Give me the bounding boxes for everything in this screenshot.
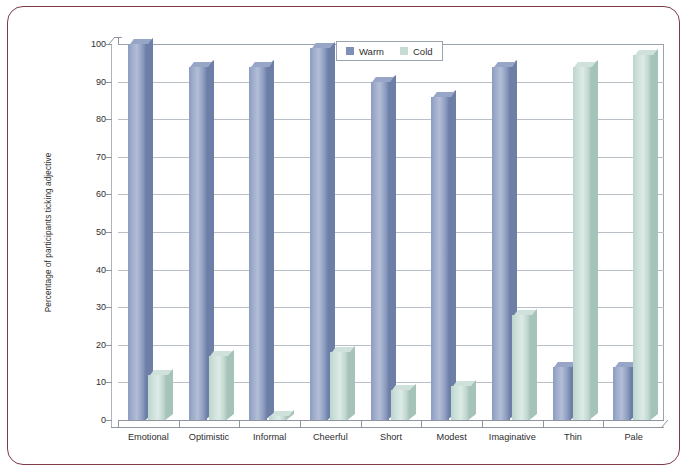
y-axis-tick-label: 100 xyxy=(80,39,106,49)
bar-warm xyxy=(371,82,389,420)
x-axis-line xyxy=(118,420,664,421)
y-axis-tick-label: 20 xyxy=(80,340,106,350)
x-axis-tick-mark xyxy=(603,420,604,427)
bar-top xyxy=(190,62,212,67)
x-axis-category-label: Informal xyxy=(253,432,286,442)
y-axis-tick-label: 30 xyxy=(80,302,106,312)
bar-face xyxy=(148,375,166,420)
y-axis-tick-mark xyxy=(106,157,112,158)
bar-face xyxy=(189,67,207,420)
bar-top xyxy=(635,50,657,55)
x-axis-tick-mark xyxy=(482,420,483,427)
bar-cold xyxy=(512,315,530,420)
bar-top xyxy=(372,77,394,82)
x-axis-tick-mark xyxy=(179,420,180,427)
y-axis-tick-mark xyxy=(106,270,112,271)
bar-side xyxy=(651,50,658,420)
y-axis-tick-mark xyxy=(106,345,112,346)
bar-top xyxy=(433,92,455,97)
y-axis-tick-mark xyxy=(106,420,112,421)
bar-cold xyxy=(391,390,409,420)
y-axis-tick-label: 40 xyxy=(80,265,106,275)
y-axis-tick-mark xyxy=(106,307,112,308)
bar-face xyxy=(613,367,631,420)
bar-top xyxy=(271,411,293,416)
bar-face xyxy=(371,82,389,420)
bar-side xyxy=(227,350,234,419)
bar-face xyxy=(209,356,227,420)
bar-group xyxy=(300,44,361,420)
bar-face xyxy=(128,44,146,420)
y-axis-depth-line xyxy=(111,44,112,427)
x-axis-category-labels: EmotionalOptimisticInformalCheerfulShort… xyxy=(118,432,664,452)
legend-swatch-icon xyxy=(346,47,354,55)
x-axis-tick-mark xyxy=(543,420,544,427)
bar-warm xyxy=(128,44,146,420)
y-axis-tick-labels: 0102030405060708090100 xyxy=(78,0,106,474)
bar-group xyxy=(603,44,664,420)
x-axis-category-label: Short xyxy=(380,432,402,442)
bar-top xyxy=(392,385,414,390)
bar-top xyxy=(150,370,172,375)
x-axis-category-label: Optimistic xyxy=(189,432,229,442)
bar-top xyxy=(332,347,354,352)
bar-group xyxy=(543,44,604,420)
bar-cold xyxy=(148,375,166,420)
bar-top xyxy=(453,381,475,386)
x-axis-tick-mark xyxy=(300,420,301,427)
bar-side xyxy=(469,380,476,419)
bar-top xyxy=(494,62,516,67)
bar-group xyxy=(421,44,482,420)
y-axis-tick-label: 10 xyxy=(80,377,106,387)
y-axis-tick-label: 0 xyxy=(80,415,106,425)
legend-label: Cold xyxy=(413,46,433,57)
y-axis-tick-label: 80 xyxy=(80,114,106,124)
bar-side xyxy=(267,61,274,420)
bar-cold xyxy=(633,55,651,420)
y-axis-tick-label: 50 xyxy=(80,227,106,237)
x-axis-category-label: Modest xyxy=(437,432,467,442)
x-axis-depth-line xyxy=(111,427,664,428)
bar-warm xyxy=(553,367,571,420)
plot-area xyxy=(118,44,664,420)
bar-top xyxy=(574,62,596,67)
x-axis-tick-mark xyxy=(118,420,119,427)
x-axis-category-label: Pale xyxy=(624,432,642,442)
bar-group xyxy=(482,44,543,420)
bar-warm xyxy=(492,67,510,420)
chart-legend: WarmCold xyxy=(336,41,443,61)
x-axis-category-label: Imaginative xyxy=(489,432,536,442)
bar-top xyxy=(312,43,334,48)
x-axis-tick-mark xyxy=(239,420,240,427)
bar-cold xyxy=(573,67,591,420)
bar-face xyxy=(633,55,651,420)
bar-face xyxy=(330,352,348,420)
bar-side xyxy=(166,369,173,419)
y-axis-tick-label: 70 xyxy=(80,152,106,162)
bar-side xyxy=(449,91,456,419)
x-axis-category-label: Emotional xyxy=(128,432,169,442)
legend-swatch-icon xyxy=(400,47,408,55)
legend-entry: Warm xyxy=(346,46,384,57)
x-axis-category-label: Thin xyxy=(564,432,582,442)
y-axis-title: Percentage of participants ticking adjec… xyxy=(44,108,53,358)
bar-side xyxy=(348,347,355,420)
y-axis-tick-label: 90 xyxy=(80,77,106,87)
bar-cold xyxy=(209,356,227,420)
bar-cold xyxy=(330,352,348,420)
bar-group xyxy=(239,44,300,420)
x-axis-category-label: Cheerful xyxy=(313,432,348,442)
y-axis-tick-mark xyxy=(106,119,112,120)
legend-entry: Cold xyxy=(400,46,433,57)
bar-face xyxy=(391,390,409,420)
bar-warm xyxy=(613,367,631,420)
bar-group xyxy=(179,44,240,420)
bar-face xyxy=(512,315,530,420)
legend-label: Warm xyxy=(359,46,384,57)
bar-face xyxy=(310,48,328,420)
bar-top xyxy=(251,62,273,67)
bar-cold xyxy=(269,416,287,420)
bar-side xyxy=(389,76,396,419)
y-axis-tick-mark xyxy=(106,232,112,233)
y-axis-tick-mark xyxy=(106,382,112,383)
